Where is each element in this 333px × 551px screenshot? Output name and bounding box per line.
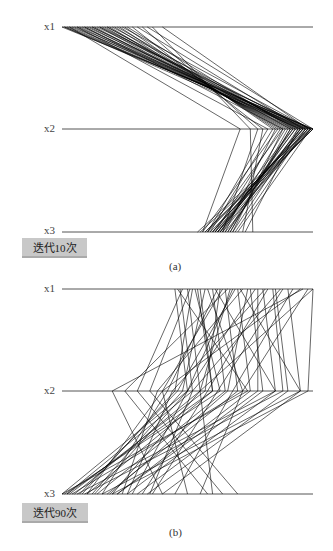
parallel-plot-b [0, 0, 333, 551]
axis-label-x1: x1 [44, 283, 55, 294]
axis-label-x2: x2 [44, 385, 55, 396]
iteration-badge-b: 迭代90次 [22, 503, 88, 523]
caption-b: (b) [169, 526, 182, 538]
axis-label-x3: x3 [44, 488, 55, 499]
